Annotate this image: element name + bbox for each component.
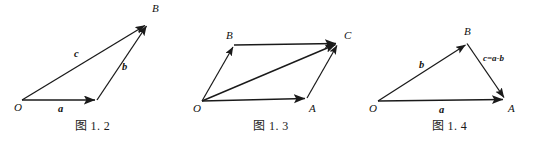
point-label-A: A [507, 102, 515, 114]
figure-1-4-canvas: O A B a b c=a-b [357, 0, 542, 118]
vector-b-line [378, 45, 466, 101]
figure-1-2-canvas: O B a b c [0, 0, 185, 118]
point-label-O: O [193, 102, 201, 114]
vector-BC-line [234, 44, 336, 46]
vector-label-b: b [122, 61, 127, 72]
vector-AC-line [307, 46, 337, 99]
point-label-A: A [308, 102, 316, 114]
point-label-B: B [464, 25, 471, 37]
point-label-B: B [152, 2, 159, 14]
point-label-B: B [226, 29, 233, 41]
vector-label-c-equation: c=a-b [483, 53, 505, 63]
vector-label-b: b [419, 59, 424, 70]
vector-label-c: c [74, 48, 79, 59]
vector-OB-line [202, 47, 233, 101]
vector-label-a: a [439, 104, 444, 115]
point-label-C: C [344, 29, 352, 41]
figure-1-2-caption: 图 1. 2 [0, 116, 185, 134]
vector-label-a: a [58, 103, 63, 114]
point-label-O: O [14, 101, 22, 113]
vector-OA-line [202, 99, 305, 102]
vector-OC-line [202, 45, 336, 102]
figure-1-4: O A B a b c=a-b 图 1. 4 [357, 0, 542, 141]
figure-1-3: O A B C 图 1. 3 [185, 0, 357, 141]
figure-1-2: O B a b c 图 1. 2 [0, 0, 185, 141]
figure-1-3-caption: 图 1. 3 [185, 116, 357, 134]
figure-1-3-canvas: O A B C [185, 0, 357, 118]
vector-c-line [467, 44, 504, 98]
figure-sheet: O B a b c 图 1. 2 O A [0, 0, 542, 141]
vector-a-line [378, 100, 503, 102]
point-label-O: O [369, 102, 377, 114]
figure-1-4-caption: 图 1. 4 [357, 116, 542, 134]
